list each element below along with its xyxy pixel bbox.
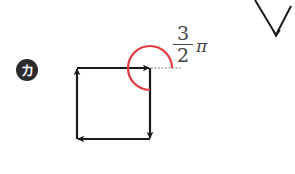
- fraction-numerator: 3: [177, 24, 189, 44]
- angle-fraction: 3 2: [170, 24, 196, 65]
- partial-v-shape: [255, 0, 291, 36]
- square-vector-path: [77, 68, 150, 139]
- fraction-denominator: 2: [177, 45, 189, 65]
- diagram-svg: [0, 0, 295, 174]
- pi-symbol: π: [196, 36, 207, 56]
- problem-label-badge: カ: [16, 59, 38, 81]
- diagram-figure: カ 3 2 π: [0, 0, 295, 174]
